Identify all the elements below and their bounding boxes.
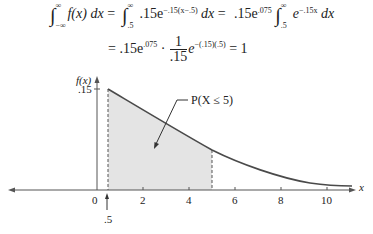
x-tick-label-6: 6 bbox=[232, 194, 238, 206]
region-label: P(X ≤ 5) bbox=[191, 93, 233, 108]
y-tick-label: .15 bbox=[78, 83, 92, 95]
half-arrow-head bbox=[105, 193, 109, 199]
x-axis-right-arrow bbox=[349, 188, 356, 193]
x-axis-label: x bbox=[359, 181, 364, 193]
x-tick-label-2: 2 bbox=[140, 194, 146, 206]
origin-label: 0 bbox=[92, 194, 98, 206]
x-axis-left-arrow bbox=[8, 188, 15, 193]
half-label: .5 bbox=[104, 213, 112, 225]
x-tick-label-8: 8 bbox=[278, 194, 284, 206]
y-axis-arrow bbox=[95, 76, 100, 83]
x-tick-label-10: 10 bbox=[321, 194, 332, 206]
x-tick-label-4: 4 bbox=[186, 194, 192, 206]
